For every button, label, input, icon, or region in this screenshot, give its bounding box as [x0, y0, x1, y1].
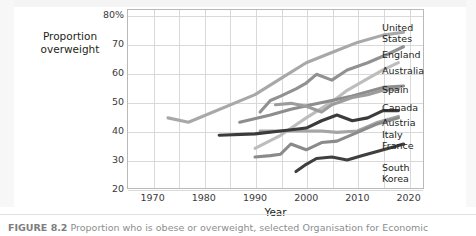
legend-item-spain: Spain — [382, 85, 409, 96]
legend-label-united-states-line1: United — [382, 23, 413, 34]
legend-label-south-korea-line1: South — [382, 163, 410, 174]
legend-label-canada-line1: Canada — [382, 103, 418, 114]
y-tick-label: 60 — [90, 67, 124, 78]
gridline-horizontal — [128, 190, 423, 191]
y-tick-label: 30 — [90, 154, 124, 165]
series-layer — [127, 9, 424, 189]
x-tick-label: 1980 — [184, 192, 224, 203]
scan-edge-tint-top — [0, 0, 476, 7]
y-tick-label: 80% — [90, 9, 124, 20]
legend-label-austria-line1: Austria — [382, 118, 416, 129]
legend-item-france: France — [382, 141, 414, 152]
legend-item-united-states: UnitedStates — [382, 23, 413, 44]
legend-item-italy: Italy — [382, 130, 403, 141]
legend-label-spain-line1: Spain — [382, 85, 409, 96]
figure-caption-text: Proportion who is obese or overweight, s… — [71, 222, 429, 233]
legend-label-italy-line1: Italy — [382, 130, 403, 141]
y-tick-label: 20 — [90, 183, 124, 194]
caption-divider — [0, 214, 476, 215]
legend-item-canada: Canada — [382, 103, 418, 114]
x-tick-label: 1990 — [235, 192, 275, 203]
legend-label-france-line1: France — [382, 141, 414, 152]
x-tick-label: 2000 — [286, 192, 326, 203]
x-axis-ticks: 197019801990200020102020 — [127, 192, 424, 206]
x-tick-label: 1970 — [133, 192, 173, 203]
y-tick-label: 40 — [90, 125, 124, 136]
y-tick-label: 50 — [90, 96, 124, 107]
legend-item-austria: Austria — [382, 118, 416, 129]
figure-caption-label: FIGURE 8.2 — [8, 222, 67, 233]
figure-caption: FIGURE 8.2 Proportion who is obese or ov… — [8, 222, 470, 236]
y-tick-label: 70 — [90, 38, 124, 49]
legend-label-south-korea-line2: Korea — [382, 174, 410, 185]
legend-item-england: England — [382, 50, 421, 61]
scan-edge-tint-left — [0, 0, 14, 207]
x-axis-title: Year — [127, 206, 424, 218]
legend-label-australia-line1: Australia — [382, 66, 424, 77]
x-tick-label: 2020 — [389, 192, 429, 203]
legend-label-united-states-line2: States — [382, 34, 413, 45]
legend-item-south-korea: SouthKorea — [382, 163, 410, 184]
figure-container: Proportion overweight 80%706050403020 19… — [0, 0, 476, 236]
line-series-svg — [127, 9, 424, 189]
x-tick-label: 2010 — [337, 192, 377, 203]
legend-item-australia: Australia — [382, 66, 424, 77]
y-axis-ticks: 80%706050403020 — [86, 9, 124, 189]
legend: UnitedStatesEnglandAustraliaSpainCanadaA… — [382, 9, 476, 189]
legend-label-england-line1: England — [382, 50, 421, 61]
